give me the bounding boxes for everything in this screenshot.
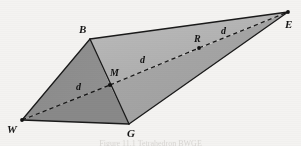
vertex-label-E: E [285, 19, 292, 30]
vertex-label-W: W [7, 124, 17, 135]
distance-label-mr: d [140, 55, 145, 65]
point-dot-r [197, 46, 201, 50]
vertex-label-B: B [79, 24, 86, 35]
point-dot-e [286, 10, 290, 14]
distance-label-re: d [221, 26, 226, 36]
point-dot-m [108, 83, 112, 87]
point-label-R: R [194, 34, 201, 44]
vertex-label-G: G [127, 128, 135, 139]
tetrahedron-figure: B E W G M R d d d Figure 11.1 Tetrahedro… [0, 0, 301, 146]
distance-label-wm: d [76, 82, 81, 92]
point-dot-w [20, 118, 24, 122]
figure-caption: Figure 11.1 Tetrahedron BWGE [0, 139, 301, 146]
point-label-M: M [110, 68, 119, 78]
figure-canvas [0, 0, 301, 146]
